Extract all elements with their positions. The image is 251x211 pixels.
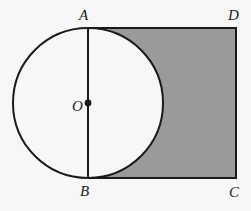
center-point-dot bbox=[85, 100, 92, 107]
vertex-label-d: D bbox=[228, 8, 239, 23]
vertex-label-c: C bbox=[229, 185, 239, 200]
geometry-figure: A D B C O bbox=[0, 0, 251, 211]
vertex-label-b: B bbox=[80, 184, 89, 199]
figure-canvas bbox=[0, 0, 251, 211]
center-label-o: O bbox=[72, 99, 83, 114]
vertex-label-a: A bbox=[79, 8, 88, 23]
